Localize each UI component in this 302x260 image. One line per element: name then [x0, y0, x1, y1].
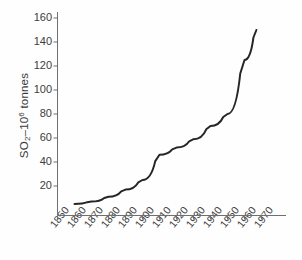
chart-figure: SO2–106 tonnes 20406080100120140160 1850…: [0, 0, 302, 260]
axes: [54, 12, 287, 220]
plot-area: [0, 0, 302, 260]
data-series-line: [75, 30, 257, 204]
